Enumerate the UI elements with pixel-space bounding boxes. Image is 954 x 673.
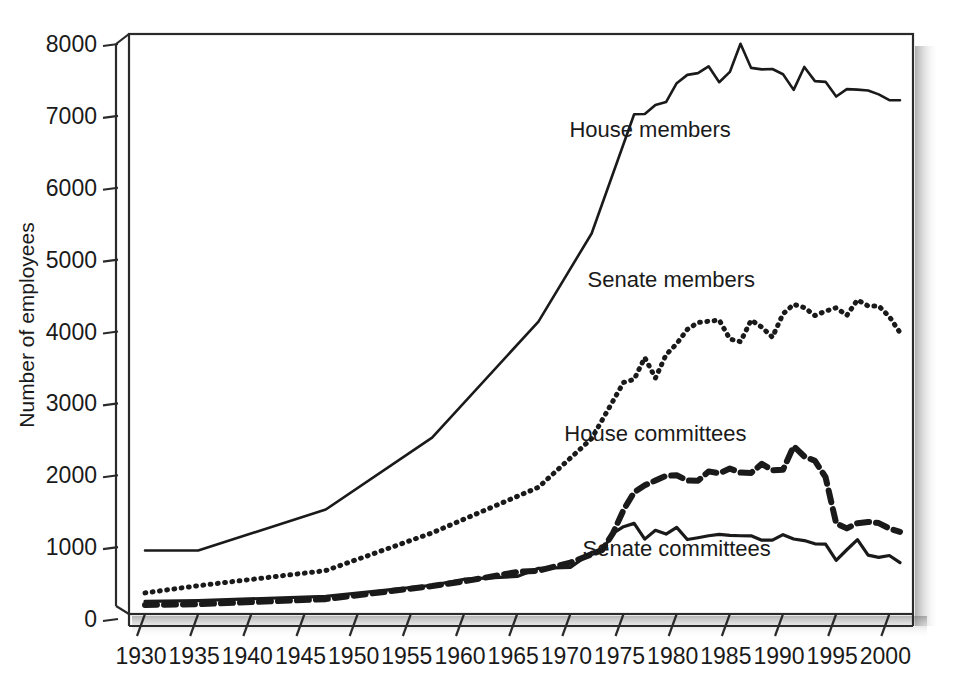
x-tick-label: 1975 bbox=[594, 643, 645, 669]
data-series-group bbox=[145, 44, 900, 605]
series-label-senate-members: Senate members bbox=[588, 267, 756, 292]
chart-container: 010002000300040005000600070008000 193019… bbox=[0, 0, 954, 673]
x-tick-label: 1990 bbox=[753, 643, 804, 669]
y-axis-title: Number of employees bbox=[15, 222, 38, 427]
y-tick-label: 0 bbox=[84, 606, 97, 632]
series-line-senate-members bbox=[145, 300, 900, 593]
series-label-senate-committees: Senate committees bbox=[583, 536, 771, 561]
x-tick-label: 1995 bbox=[807, 643, 858, 669]
x-tick-label: 1960 bbox=[434, 643, 485, 669]
series-line-house-committees bbox=[145, 446, 900, 605]
y-tick-label: 7000 bbox=[46, 103, 97, 129]
x-tick-label: 1950 bbox=[328, 643, 379, 669]
x-tick-label: 1945 bbox=[275, 643, 326, 669]
y-axis: 010002000300040005000600070008000 bbox=[46, 31, 118, 632]
y-tick-label: 2000 bbox=[46, 462, 97, 488]
y-tick-label: 6000 bbox=[46, 175, 97, 201]
y-tick-label: 8000 bbox=[46, 31, 97, 57]
x-tick-label: 1985 bbox=[700, 643, 751, 669]
x-tick-label: 1970 bbox=[541, 643, 592, 669]
series-label-house-members: House members bbox=[569, 117, 730, 142]
y-tick-mark bbox=[103, 619, 118, 621]
x-tick-label: 2000 bbox=[860, 643, 911, 669]
series-label-house-committees: House committees bbox=[564, 421, 746, 446]
y-tick-label: 5000 bbox=[46, 247, 97, 273]
y-tick-label: 1000 bbox=[46, 534, 97, 560]
y-tick-label: 4000 bbox=[46, 319, 97, 345]
x-tick-label: 1940 bbox=[222, 643, 273, 669]
x-tick-label: 1980 bbox=[647, 643, 698, 669]
x-tick-label: 1935 bbox=[169, 643, 220, 669]
y-tick-label: 3000 bbox=[46, 390, 97, 416]
line-chart: 010002000300040005000600070008000 193019… bbox=[0, 0, 954, 673]
plot-shadow bbox=[132, 46, 939, 638]
x-tick-label: 1965 bbox=[488, 643, 539, 669]
series-line-house-members bbox=[145, 44, 900, 551]
x-tick-label: 1955 bbox=[381, 643, 432, 669]
series-line-senate-committees bbox=[145, 523, 900, 601]
x-tick-label: 1930 bbox=[115, 643, 166, 669]
